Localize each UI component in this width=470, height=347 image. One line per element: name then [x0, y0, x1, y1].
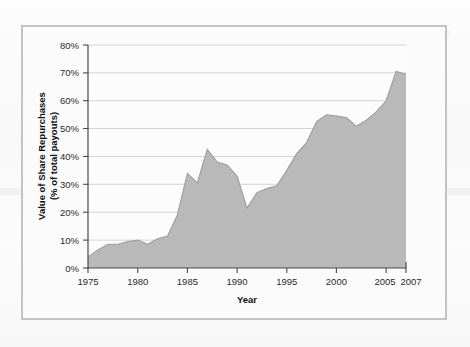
x-tick-label-2000: 2000 [326, 276, 347, 287]
y-tick-label-80: 80% [60, 40, 80, 51]
y-tick-marks [83, 45, 88, 268]
x-tick-label-1985: 1985 [177, 276, 198, 287]
x-tick-label-1980: 1980 [127, 276, 148, 287]
y-axis-title-line1: Value of Share Repurchases [36, 92, 47, 220]
y-tick-labels: 80% 70% 60% 50% 40% 30% 20% 10% 0% [60, 40, 80, 274]
y-axis-title-line2: (% of total payouts) [48, 112, 59, 200]
x-tick-label-1990: 1990 [227, 276, 248, 287]
y-tick-label-40: 40% [60, 151, 80, 162]
x-tick-label-1995: 1995 [276, 276, 297, 287]
x-tick-labels: 1975 1980 1985 1990 1995 2000 2005 2007 [77, 276, 421, 287]
x-tick-label-1975: 1975 [77, 276, 98, 287]
x-tick-label-2005: 2005 [374, 276, 395, 287]
share-repurchases-area-chart: 80% 70% 60% 50% 40% 30% 20% 10% 0% 1975 … [0, 0, 470, 347]
x-axis-title: Year [237, 294, 257, 305]
y-tick-label-30: 30% [60, 179, 80, 190]
y-tick-label-20: 20% [60, 207, 80, 218]
y-tick-label-50: 50% [60, 123, 80, 134]
y-tick-label-10: 10% [60, 235, 80, 246]
figure-root: 80% 70% 60% 50% 40% 30% 20% 10% 0% 1975 … [0, 0, 470, 347]
y-tick-label-60: 60% [60, 95, 80, 106]
y-tick-label-70: 70% [60, 67, 80, 78]
y-tick-label-0: 0% [65, 263, 79, 274]
x-tick-label-2007: 2007 [400, 276, 421, 287]
x-tick-marks [88, 268, 406, 273]
